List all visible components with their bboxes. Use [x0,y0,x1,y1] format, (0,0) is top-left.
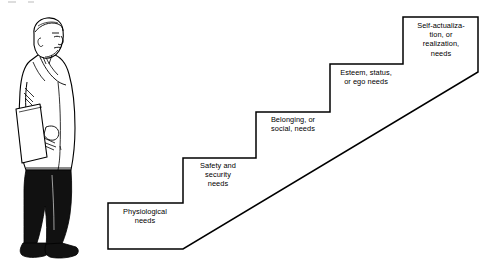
diagram-canvas: Physiological needs Safety and security … [0,0,489,270]
step-label-physiological: Physiological needs [112,207,178,225]
man-walking-figure [8,2,78,258]
step-label-belonging: Belonging, or social, needs [258,115,328,133]
step-label-safety: Safety and security needs [186,161,250,189]
step-label-esteem: Esteem, status, or ego needs [332,68,400,86]
step-label-self-actualization: Self-actualiza- tion, or realization, ne… [405,21,477,58]
